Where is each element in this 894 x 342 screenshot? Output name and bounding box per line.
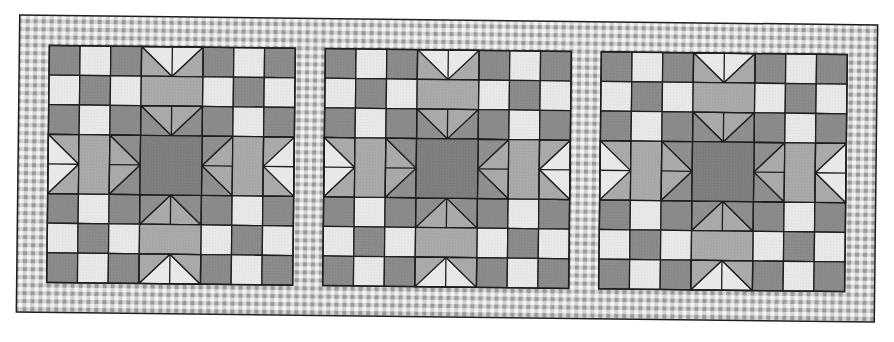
quilt-root: [16, 15, 877, 322]
block-2: [323, 49, 572, 289]
block-1: [47, 45, 296, 285]
quilt-diagram: [0, 0, 894, 342]
quilt-svg: [0, 0, 894, 342]
block-3: [599, 52, 848, 292]
